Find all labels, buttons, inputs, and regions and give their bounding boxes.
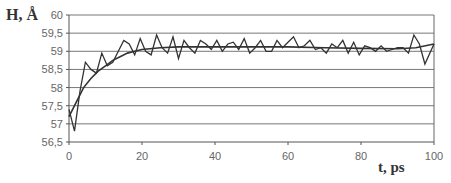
x-tick-label: 100 <box>425 150 443 162</box>
line-chart: 56,55757,55858,55959,560 020406080100 <box>0 0 451 183</box>
y-tick-label: 57,5 <box>42 100 63 112</box>
y-tick-label: 59,5 <box>42 27 63 39</box>
y-tick-label: 57 <box>51 118 63 130</box>
y-tick-label: 58,5 <box>42 63 63 75</box>
gridlines <box>69 15 434 124</box>
x-tick-label: 20 <box>136 150 148 162</box>
y-tick-label: 59 <box>51 45 63 57</box>
y-tick-label: 56,5 <box>42 136 63 148</box>
y-axis-ticks: 56,55757,55858,55959,560 <box>42 9 69 148</box>
x-tick-label: 40 <box>209 150 221 162</box>
y-tick-label: 58 <box>51 82 63 94</box>
x-tick-label: 80 <box>355 150 367 162</box>
series-instantaneous <box>69 35 434 131</box>
x-tick-label: 60 <box>282 150 294 162</box>
x-tick-label: 0 <box>66 150 72 162</box>
y-axis-label: H, Å <box>6 6 38 24</box>
x-axis-label: t, ps <box>378 159 405 176</box>
y-tick-label: 60 <box>51 9 63 21</box>
